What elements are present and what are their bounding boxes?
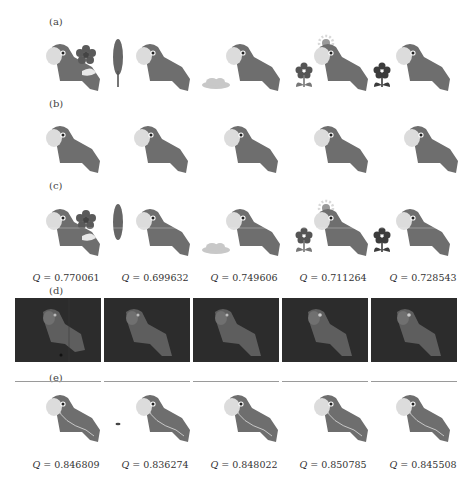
panel-d-image-2	[104, 298, 190, 362]
panel-e-score-3: Q = 0.848022	[198, 459, 290, 470]
panel-label-d: (d)	[49, 285, 63, 296]
panel-e-separator-4	[282, 381, 368, 382]
panel-c-score-4: Q = 0.711264	[287, 272, 379, 283]
panel-label-b: (b)	[49, 98, 63, 109]
panel-label-a: (a)	[49, 16, 63, 27]
panel-c-image-2	[112, 198, 202, 258]
panel-b-image-1	[30, 115, 120, 175]
panel-e-image-5	[372, 390, 462, 450]
panel-d-image-5	[371, 298, 457, 362]
panel-c-image-1	[30, 198, 120, 258]
panel-c-score-5: Q = 0.728543	[377, 272, 469, 283]
panel-c-image-5	[370, 198, 460, 258]
panel-c-image-3	[200, 198, 290, 258]
panel-a-image-4	[290, 33, 380, 93]
panel-c-score-2: Q = 0.699632	[109, 272, 201, 283]
panel-label-c: (c)	[49, 180, 62, 191]
panel-e-score-5: Q = 0.845508	[377, 459, 469, 470]
panel-a-image-3	[200, 33, 290, 93]
panel-a-image-1	[30, 33, 120, 93]
panel-c-score-1: Q = 0.770061	[20, 272, 112, 283]
panel-a-image-2	[112, 33, 202, 93]
panel-e-separator-2	[104, 381, 190, 382]
panel-d-image-4	[282, 298, 368, 362]
panel-b-image-4	[298, 115, 388, 175]
panel-e-image-1	[30, 390, 120, 450]
panel-d-image-3	[193, 298, 279, 362]
panel-e-score-2: Q = 0.836274	[109, 459, 201, 470]
panel-b-image-5	[388, 115, 469, 175]
panel-b-image-3	[208, 115, 298, 175]
panel-e-score-1: Q = 0.846809	[20, 459, 112, 470]
panel-d-image-1	[15, 298, 101, 362]
panel-a-image-5	[370, 33, 460, 93]
panel-e-image-2	[112, 390, 202, 450]
panel-e-image-4	[290, 390, 380, 450]
panel-c-score-3: Q = 0.749606	[198, 272, 290, 283]
panel-e-separator-3	[193, 381, 279, 382]
panel-e-separator-5	[371, 381, 457, 382]
panel-c-image-4	[290, 198, 380, 258]
panel-e-separator-1	[15, 381, 101, 382]
panel-b-image-2	[118, 115, 208, 175]
panel-e-image-3	[200, 390, 290, 450]
panel-e-score-4: Q = 0.850785	[287, 459, 379, 470]
